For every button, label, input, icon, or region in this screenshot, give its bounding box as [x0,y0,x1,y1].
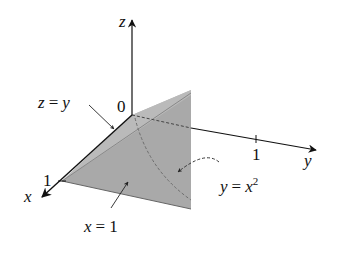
label-y-eq-x2: y=x2 [218,175,258,196]
solid-region-diagram: z 0 1 y 1 x z=y x=1 y=x2 [0,0,339,253]
pointer-z-eq-y [89,105,114,129]
y-tick-label: 1 [252,145,261,164]
z-axis-label: z [118,12,126,31]
y-axis-label: y [302,151,312,170]
label-x-eq-1: x=1 [83,217,118,236]
label-z-eq-y: z=y [37,93,70,112]
x-tick-label: 1 [43,171,52,190]
origin-label: 0 [117,97,126,116]
x-axis-label: x [23,187,32,206]
